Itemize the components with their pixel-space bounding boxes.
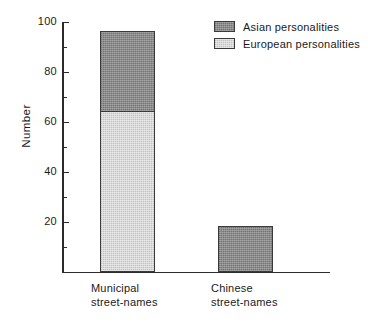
y-tick-100 <box>63 22 69 24</box>
chart-legend: Asian personalities European personaliti… <box>214 18 360 52</box>
x-category-label-chinese-line2: street-names <box>211 295 361 309</box>
legend-label-european: European personalities <box>243 38 360 50</box>
y-tick-label-80: 80 <box>44 66 57 77</box>
legend-label-asian: Asian personalities <box>243 21 339 33</box>
bar-municipal-european-segment <box>100 111 155 272</box>
y-axis-title: Number <box>20 86 32 166</box>
y-tick-40 <box>63 172 69 174</box>
asian-swatch-icon <box>214 21 235 32</box>
bar-chinese-asian-segment <box>218 226 273 272</box>
x-category-label-chinese: Chinese street-names <box>211 281 361 309</box>
y-tick-80 <box>63 72 69 74</box>
y-tick-label-60: 60 <box>44 116 57 127</box>
x-category-label-chinese-line1: Chinese <box>211 281 361 295</box>
european-swatch-icon <box>214 38 235 49</box>
bar-chart: Number 100 80 60 40 20 Municipal street-… <box>0 0 368 326</box>
y-minor-tick-90 <box>63 47 67 49</box>
y-minor-tick-50 <box>63 147 67 149</box>
y-tick-label-20: 20 <box>44 216 57 227</box>
y-tick-20 <box>63 222 69 224</box>
y-tick-60 <box>63 122 69 124</box>
y-minor-tick-70 <box>63 97 67 99</box>
legend-item-european: European personalities <box>214 35 360 52</box>
y-minor-tick-30 <box>63 197 67 199</box>
y-tick-label-40: 40 <box>44 166 57 177</box>
bar-municipal-asian-segment <box>100 31 155 112</box>
y-minor-tick-10 <box>63 247 67 249</box>
y-tick-label-100: 100 <box>38 16 57 27</box>
legend-item-asian: Asian personalities <box>214 18 360 35</box>
